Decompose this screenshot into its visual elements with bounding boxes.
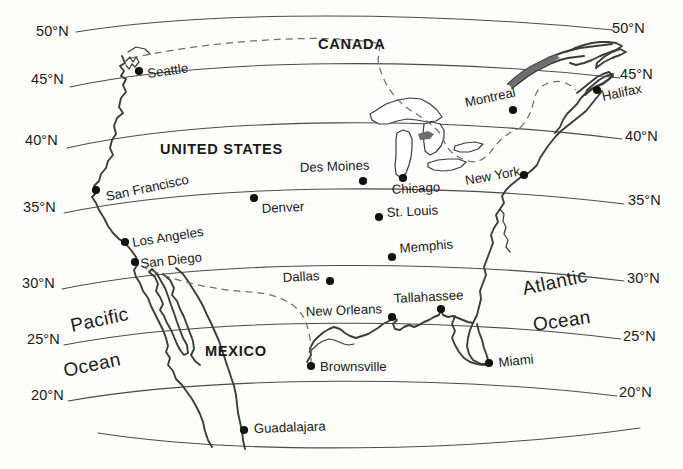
latitude-label-right-35-n: 35°N [628, 192, 661, 208]
city-label-guadalajara: Guadalajara [254, 418, 327, 436]
city-label-st-louis: St. Louis [386, 202, 438, 220]
latitude-labels-right: 50°N45°N40°N35°N30°N25°N20°N [612, 20, 661, 400]
ocean-label-atlantic-2: Atlantic [520, 265, 588, 299]
city-dot-tallahassee[interactable] [437, 305, 445, 313]
map-canvas: 50°N45°N40°N35°N30°N25°N20°N 50°N45°N40°… [0, 0, 683, 469]
map-figure: 50°N45°N40°N35°N30°N25°N20°N 50°N45°N40°… [0, 0, 683, 469]
lake-ontario [454, 142, 483, 152]
city-label-chicago: Chicago [391, 179, 440, 197]
latitude-label-left-35-n: 35°N [23, 199, 56, 215]
country-label-mexico: MEXICO [205, 343, 267, 359]
city-dot-seattle[interactable] [135, 67, 143, 75]
latitude-label-left-30-n: 30°N [22, 275, 55, 291]
country-label-united-states: UNITED STATES [160, 141, 283, 157]
city-label-los-angeles: Los Angeles [131, 224, 205, 250]
latitude-label-left-25-n: 25°N [27, 331, 60, 347]
ocean-label-ocean-3: Ocean [532, 306, 592, 335]
city-dot-memphis[interactable] [388, 253, 396, 261]
city-label-miami: Miami [498, 351, 535, 370]
city-dot-st-louis[interactable] [375, 213, 383, 221]
latitude-label-left-20-n: 20°N [31, 387, 64, 403]
lake-erie [428, 159, 466, 171]
latitude-line-50 [76, 16, 613, 32]
city-label-new-orleans: New Orleans [306, 301, 383, 319]
latitude-label-left-50-n: 50°N [36, 23, 69, 39]
city-dot-miami[interactable] [485, 359, 493, 367]
latitude-line-bottom [98, 428, 640, 448]
city-dot-dallas[interactable] [326, 277, 334, 285]
country-label-canada: CANADA [318, 36, 385, 52]
city-label-san-francisco: San Francisco [105, 172, 191, 204]
city-label-san-diego: San Diego [140, 250, 203, 271]
coastline-puget-sound [126, 57, 139, 69]
coastline-texas-barrier [309, 339, 354, 352]
latitude-label-right-30-n: 30°N [627, 270, 660, 286]
lake-michigan [395, 130, 412, 178]
city-label-tallahassee: Tallahassee [393, 287, 463, 306]
city-label-des-moines: Des Moines [300, 158, 371, 175]
latitude-label-left-45-n: 45°N [31, 71, 64, 87]
city-dot-des-moines[interactable] [359, 177, 367, 185]
latitude-line-20 [68, 381, 617, 401]
border-us-canada-east [520, 81, 576, 128]
city-dot-san-diego[interactable] [131, 258, 139, 266]
latitude-label-right-40-n: 40°N [625, 128, 658, 144]
city-label-montreal: Montreal [464, 85, 517, 110]
city-label-brownsville: Brownsville [320, 359, 387, 374]
city-label-dallas: Dallas [282, 268, 320, 285]
latitude-label-left-40-n: 40°N [25, 132, 58, 148]
latitude-labels-left: 50°N45°N40°N35°N30°N25°N20°N [22, 23, 69, 403]
ocean-label-pacific-0: Pacific [68, 303, 130, 336]
coastline-florida [467, 323, 489, 364]
latitude-label-right-25-n: 25°N [623, 328, 656, 344]
city-label-seattle: Seattle [146, 60, 189, 81]
lake-superior [370, 98, 442, 124]
city-dot-los-angeles[interactable] [121, 238, 129, 246]
coastline-chesapeake [500, 209, 510, 252]
city-label-denver: Denver [261, 199, 305, 216]
ocean-label-ocean-1: Ocean [61, 348, 122, 381]
latitude-label-right-45-n: 45°N [620, 66, 653, 82]
city-dot-guadalajara[interactable] [240, 426, 248, 434]
coastline-vancouver-island [128, 47, 150, 54]
city-label-memphis: Memphis [399, 236, 454, 256]
latitude-label-right-50-n: 50°N [612, 20, 645, 36]
city-label-halifax: Halifax [601, 81, 644, 104]
city-dots [92, 67, 601, 434]
latitude-line-40 [67, 123, 622, 148]
city-dot-san-francisco[interactable] [92, 186, 100, 194]
city-dot-new-orleans[interactable] [388, 313, 396, 321]
city-dot-brownsville[interactable] [307, 362, 315, 370]
city-dot-montreal[interactable] [509, 106, 517, 114]
latitude-label-right-20-n: 20°N [619, 384, 652, 400]
city-dot-denver[interactable] [250, 194, 258, 202]
